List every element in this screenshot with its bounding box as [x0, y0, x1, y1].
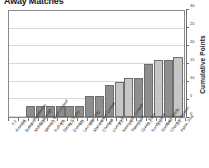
y-axis-tick-label: 20: [190, 39, 194, 44]
chart-container: Away Matches 051015202530 Cumulative Poi…: [0, 0, 209, 168]
opponent-label: Chelsea: [96, 130, 106, 168]
y-axis-tick: [186, 63, 189, 64]
y-axis-tick-label: 30: [190, 3, 194, 8]
opponent-label: Sheffield Weds: [155, 130, 165, 168]
y-axis-tick: [186, 27, 189, 28]
y-axis-title-label: Cumulative Points: [199, 35, 206, 93]
y-axis-tick-label: 5: [190, 93, 192, 98]
opponent-label: Manchester United: [87, 130, 97, 168]
y-axis-tick: [186, 9, 189, 10]
bar: [115, 82, 124, 117]
plot-area: [8, 10, 185, 118]
opponent-label: Newcastle United: [116, 130, 126, 168]
opponent-label: Fulham: [48, 130, 58, 168]
y-axis-tick: [186, 81, 189, 82]
opponent-label: Liverpool: [106, 130, 116, 168]
opponent-label: Tottenham: [126, 130, 136, 168]
y-axis-tick: [186, 99, 189, 100]
opponent-label: Green Town: [135, 130, 145, 168]
opponent-label: Aston Villa: [174, 130, 184, 168]
opponent-label: Derby County: [58, 130, 68, 168]
bar: [144, 64, 153, 117]
y-axis-tick-label: 10: [190, 75, 194, 80]
x-axis: 0-20-31-00-10-21-00-10-24-01-03-01-11-11…: [8, 118, 185, 168]
bar: [124, 78, 133, 117]
y-axis-tick-label: 25: [190, 21, 194, 26]
bar: [164, 60, 173, 117]
opponent-label-row: ArsenalBolton WanderersMiddlesbroughIpsw…: [8, 130, 185, 168]
opponent-label: Middlesbrough: [28, 130, 38, 168]
page-title: Away Matches: [4, 0, 63, 6]
opponent-label: Bolton Wanderers: [19, 130, 29, 168]
y-axis-tick-label: 15: [190, 57, 194, 62]
y-axis-title: Cumulative Points: [196, 10, 208, 118]
opponent-label: Everton: [67, 130, 77, 168]
y-axis-tick: [186, 45, 189, 46]
opponent-label: Sunderland: [145, 130, 155, 168]
opponent-label: Arsenal: [9, 130, 19, 168]
bar-series: [9, 11, 184, 117]
bar: [154, 60, 163, 117]
opponent-label: Leicester City: [77, 130, 87, 168]
opponent-label: Charlton Athletic: [165, 130, 175, 168]
opponent-label: Ipswich Town United: [38, 130, 48, 168]
